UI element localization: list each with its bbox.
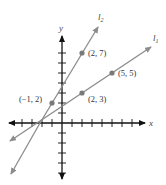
point-2-7: (2, 7) xyxy=(79,48,106,58)
y-axis: y xyxy=(58,23,66,179)
line-l2: l2 xyxy=(11,12,104,174)
point-label: (2, 7) xyxy=(88,48,107,58)
point-label: (−1, 2) xyxy=(19,94,42,104)
line-l2-label: l2 xyxy=(98,12,104,23)
x-axis-label: x xyxy=(148,118,153,128)
y-axis-label: y xyxy=(58,23,63,33)
point-5-5: (5, 5) xyxy=(109,68,136,78)
point-neg1-2: (−1, 2) xyxy=(19,94,55,106)
coordinate-plane: x y l1 l2 (−1, xyxy=(0,0,166,185)
line-l1-label: l1 xyxy=(153,33,159,44)
point-label: (5, 5) xyxy=(118,68,137,78)
point-2-3: (2, 3) xyxy=(79,90,106,104)
point-label: (2, 3) xyxy=(88,94,107,104)
